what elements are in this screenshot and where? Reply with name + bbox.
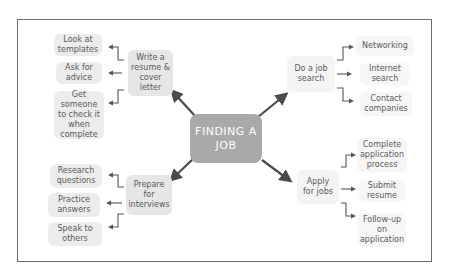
leaf-internet-search: Internet search (360, 63, 410, 85)
leaf-submit-resume: Submit resume (359, 180, 405, 202)
leaf-networking: Networking (356, 36, 414, 56)
branch-label: Apply for jobs (300, 177, 336, 197)
branch-apply-for-jobs: Apply for jobs (297, 170, 339, 204)
center-node: FINDING A JOB (190, 114, 262, 163)
leaf-speak-to-others: Speak to others (48, 222, 102, 246)
leaf-contact-companies: Contact companies (360, 92, 412, 116)
branch-label: Do a job search (290, 64, 332, 84)
leaf-practice-answers: Practice answers (48, 193, 100, 217)
branch-do-job-search: Do a job search (287, 56, 335, 92)
center-label: FINDING A JOB (193, 125, 259, 153)
branch-label: Write a resume & cover letter (131, 53, 170, 93)
leaf-ask-for-advice: Ask for advice (56, 62, 102, 84)
branch-write-resume: Write a resume & cover letter (128, 50, 173, 96)
leaf-get-someone-to-check: Get someone to check it when complete (54, 91, 104, 139)
branch-label: Prepare for interviews (128, 180, 169, 210)
leaf-look-at-templates: Look at templates (54, 34, 102, 56)
branch-prepare-interviews: Prepare for interviews (126, 175, 172, 215)
leaf-complete-application: Complete application process (357, 138, 407, 172)
leaf-follow-up: Follow-up on application (358, 213, 406, 247)
leaf-research-questions: Research questions (50, 164, 102, 188)
